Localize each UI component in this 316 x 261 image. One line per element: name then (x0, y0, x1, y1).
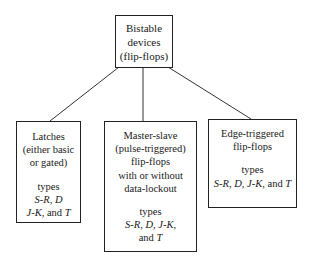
latches-types-label: types (17, 180, 80, 193)
edge-root-to-edge-triggered (168, 67, 251, 119)
edge-title-2: flip-flops (209, 140, 296, 153)
master-title-1: Master-slave (105, 129, 196, 142)
root-line-1: Bistable (116, 21, 172, 35)
latches-types-1: S-R, D (17, 193, 80, 206)
edge-root-to-latches (50, 67, 119, 121)
master-title-3: flip-flops (105, 155, 196, 168)
master-title-2: (pulse-triggered) (105, 142, 196, 155)
node-edge-triggered: Edge-triggered flip-flops types S-R, D, … (208, 119, 297, 208)
master-title-5: data-lockout (105, 182, 196, 195)
latches-title-3: or gated) (17, 156, 80, 169)
edge-types-label: types (209, 163, 296, 176)
latches-title-2: (either basic (17, 143, 80, 156)
edge-title-1: Edge-triggered (209, 127, 296, 140)
master-types-label: types (105, 205, 196, 218)
master-title-4: with or without (105, 169, 196, 182)
root-line-3: (flip-flops) (116, 49, 172, 63)
latches-types-2: J-K, and T (17, 206, 80, 219)
node-latches: Latches (either basic or gated) types S-… (16, 121, 81, 223)
master-types-1: S-R, D, J-K, (105, 218, 196, 231)
root-line-2: devices (116, 35, 172, 49)
latches-title-1: Latches (17, 130, 80, 143)
root-node-bistable-devices: Bistable devices (flip-flops) (115, 15, 173, 68)
node-master-slave: Master-slave (pulse-triggered) flip-flop… (104, 121, 197, 252)
edge-types-1: S-R, D, J-K, and T (209, 177, 296, 190)
master-types-2: and T (105, 231, 196, 244)
